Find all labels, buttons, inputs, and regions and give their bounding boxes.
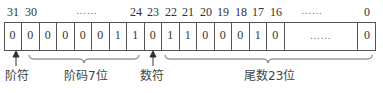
label-mantissa: 尾数23位 xyxy=(244,66,295,83)
brace-mantissa-icon xyxy=(165,55,372,63)
label-exponent: 阶码7位 xyxy=(64,66,108,83)
brace-exponent-icon xyxy=(29,55,139,63)
label-exp-sign: 阶符 xyxy=(5,66,29,83)
annotation-graphics xyxy=(0,0,383,93)
label-mant-sign: 数符 xyxy=(140,66,164,83)
